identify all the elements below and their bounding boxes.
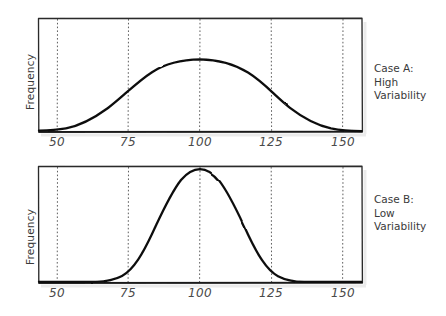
x-tick-label-a-0: 50 <box>49 135 65 149</box>
panel-case-a: Frequency <box>0 0 446 158</box>
plot-frame-b <box>39 166 363 283</box>
annotation-case-a-line-3: Variability <box>374 89 426 103</box>
plot-frame-a <box>39 18 363 132</box>
x-tick-label-b-3: 125 <box>259 286 283 300</box>
x-tick-label-a-1: 75 <box>120 135 136 149</box>
annotation-case-b-line-1: Case B: <box>374 193 426 207</box>
annotation-case-b: Case B: Low Variability <box>374 193 426 234</box>
annotation-case-b-line-3: Variability <box>374 220 426 234</box>
x-tick-label-b-0: 50 <box>49 286 65 300</box>
panel-shadow-b <box>41 170 366 286</box>
curve-case-a <box>39 59 362 131</box>
x-tick-label-b-2: 100 <box>188 286 212 300</box>
annotation-case-b-line-2: Low <box>374 207 426 221</box>
panel-case-b: Frequency <box>0 158 446 316</box>
figure-root: Frequency <box>0 0 446 316</box>
annotation-case-a: Case A: High Variability <box>374 62 426 103</box>
x-tick-label-a-4: 150 <box>331 135 355 149</box>
x-tick-label-b-1: 75 <box>120 286 136 300</box>
x-tick-label-b-4: 150 <box>331 286 355 300</box>
x-tick-label-a-2: 100 <box>188 135 212 149</box>
gridlines-b <box>57 167 343 283</box>
annotation-case-a-line-1: Case A: <box>374 62 426 76</box>
x-tick-label-a-3: 125 <box>259 135 283 149</box>
panel-shadow-a <box>41 22 366 135</box>
annotation-case-a-line-2: High <box>374 76 426 90</box>
plot-area-case-b <box>0 158 446 316</box>
